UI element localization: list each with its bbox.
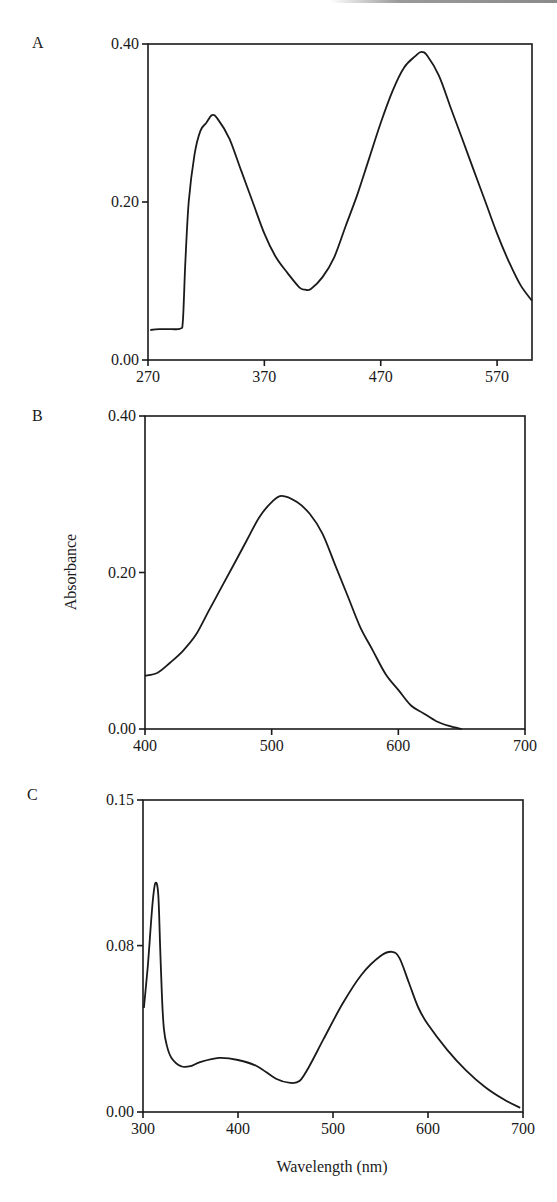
x-tick-label: 700 <box>511 1120 535 1137</box>
spectrum-curve-a <box>150 52 532 330</box>
x-tick-label: 300 <box>131 1120 155 1137</box>
panel-b: B 0.000.200.40400500600700 <box>32 407 537 754</box>
x-tick-label: 270 <box>136 368 160 385</box>
y-tick-label: 0.00 <box>111 351 139 368</box>
spectrum-curve-c <box>144 883 520 1108</box>
panel-c: C 0.000.080.15300400500600700 <box>27 786 535 1137</box>
x-tick-label: 470 <box>369 368 393 385</box>
x-tick-label: 400 <box>226 1120 250 1137</box>
y-tick-label: 0.40 <box>108 407 136 424</box>
x-tick-label: 370 <box>252 368 276 385</box>
panel-label-c: C <box>27 786 38 803</box>
y-tick-label: 0.15 <box>106 791 134 808</box>
x-tick-label: 600 <box>386 737 410 754</box>
plot-frame <box>148 44 532 360</box>
panel-label-b: B <box>32 407 43 424</box>
y-tick-label: 0.00 <box>108 720 136 737</box>
x-axis-label: Wavelength (nm) <box>276 1158 387 1176</box>
plot-frame <box>143 800 523 1112</box>
panel-label-a: A <box>32 34 44 51</box>
x-tick-label: 700 <box>513 737 537 754</box>
y-tick-label: 0.40 <box>111 35 139 52</box>
x-tick-label: 570 <box>485 368 509 385</box>
y-axis-label: Absorbance <box>62 534 79 610</box>
figure: A 0.000.200.40270370470570 B 0.000.200.4… <box>0 0 557 1202</box>
x-tick-label: 500 <box>321 1120 345 1137</box>
y-tick-label: 0.20 <box>108 564 136 581</box>
plot-frame <box>145 416 525 729</box>
y-tick-label: 0.20 <box>111 193 139 210</box>
panel-a: A 0.000.200.40270370470570 <box>32 34 532 385</box>
y-tick-label: 0.08 <box>106 937 134 954</box>
spectrum-curve-b <box>145 496 462 729</box>
x-tick-label: 400 <box>133 737 157 754</box>
x-tick-label: 600 <box>416 1120 440 1137</box>
y-tick-label: 0.00 <box>106 1103 134 1120</box>
x-tick-label: 500 <box>260 737 284 754</box>
